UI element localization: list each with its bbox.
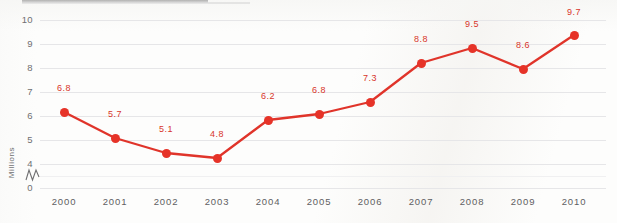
series-line-millions bbox=[0, 0, 617, 223]
x-tick-label-2010: 2010 bbox=[544, 196, 604, 207]
line-chart-plot-area: 10 9 8 7 6 5 4 0 Millions 6.8 5.7 5.1 bbox=[0, 0, 617, 223]
data-point-2009[interactable] bbox=[519, 65, 528, 74]
data-point-2006[interactable] bbox=[366, 98, 375, 107]
data-point-2000[interactable] bbox=[60, 108, 69, 117]
data-point-2002[interactable] bbox=[162, 149, 171, 158]
data-label-2010: 9.7 bbox=[554, 7, 594, 17]
data-label-2005: 6.8 bbox=[299, 85, 339, 95]
data-point-2001[interactable] bbox=[111, 134, 120, 143]
data-label-2002: 5.1 bbox=[146, 124, 186, 134]
data-point-2005[interactable] bbox=[315, 110, 324, 119]
data-point-2010[interactable] bbox=[570, 31, 579, 40]
data-point-2003[interactable] bbox=[213, 154, 222, 163]
chart-page: 10 9 8 7 6 5 4 0 Millions 6.8 5.7 5.1 bbox=[0, 0, 617, 223]
data-point-2007[interactable] bbox=[417, 59, 426, 68]
data-point-2004[interactable] bbox=[264, 116, 273, 125]
data-label-2009: 8.6 bbox=[503, 40, 543, 50]
data-label-2006: 7.3 bbox=[350, 73, 390, 83]
data-label-2003: 4.8 bbox=[197, 129, 237, 139]
data-label-2008: 9.5 bbox=[452, 19, 492, 29]
data-point-2008[interactable] bbox=[468, 44, 477, 53]
data-label-2007: 8.8 bbox=[401, 34, 441, 44]
data-label-2000: 6.8 bbox=[44, 83, 84, 93]
data-label-2001: 5.7 bbox=[95, 109, 135, 119]
data-label-2004: 6.2 bbox=[248, 91, 288, 101]
